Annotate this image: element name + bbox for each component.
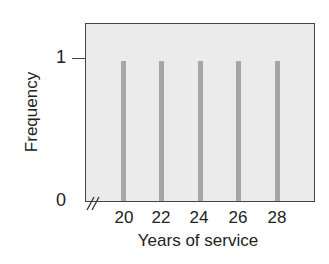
x-axis-title: Years of service [138,231,258,251]
x-tick-label-28: 28 [268,208,287,228]
bar-28 [275,61,280,201]
x-tick-label-22: 22 [152,208,171,228]
bar-20 [121,61,126,201]
x-tick-label-24: 24 [190,208,209,228]
y-tick-1 [72,58,85,59]
y-axis-title: Frequency [22,72,42,152]
plot-area [85,23,315,202]
x-tick-label-20: 20 [115,208,134,228]
x-tick-label-26: 26 [229,208,248,228]
bar-26 [236,61,241,201]
bar-22 [159,61,164,201]
y-tick-label-0: 0 [56,190,66,211]
axis-break-icon [84,193,104,213]
bar-24 [198,61,203,201]
y-tick-label-1: 1 [56,47,66,68]
